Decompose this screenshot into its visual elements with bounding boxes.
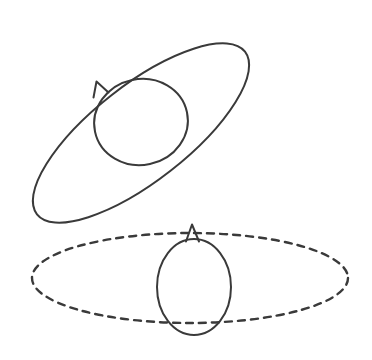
diagram-figure	[0, 0, 372, 360]
diagram-canvas	[0, 0, 372, 360]
